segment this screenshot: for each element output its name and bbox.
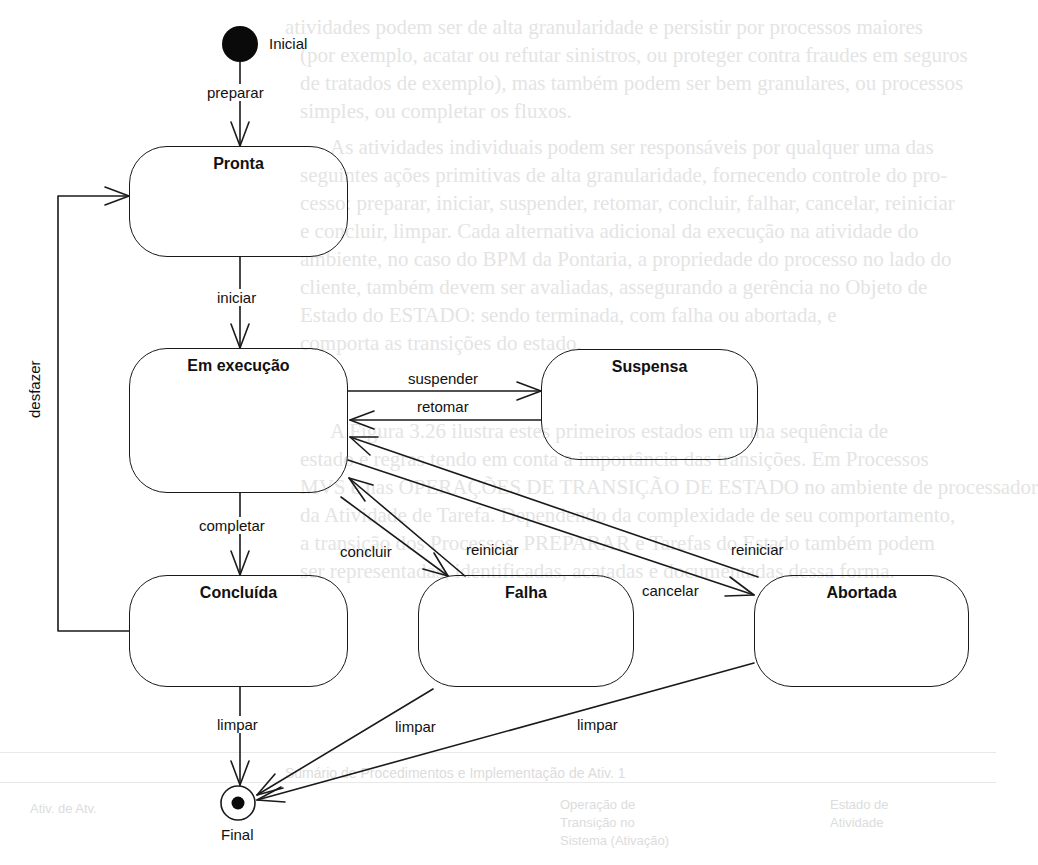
transition-label-reiniciar-abortada: reiniciar [729, 541, 786, 558]
state-name: Em execução [130, 357, 347, 375]
state-name: Concluída [130, 584, 347, 602]
state-falha: Falha [418, 575, 634, 687]
state-name: Suspensa [542, 358, 757, 376]
transition-label-reiniciar-falha: reiniciar [464, 541, 521, 558]
initial-node-icon [222, 26, 258, 62]
state-concluida: Concluída [129, 575, 348, 687]
state-pronta: Pronta [129, 146, 348, 257]
transition-limpar-concluida [231, 687, 249, 785]
transition-label-completar: completar [197, 517, 267, 534]
state-suspensa: Suspensa [541, 349, 758, 460]
transition-limpar-falha [257, 689, 433, 795]
transition-label-desfazer: desfazer [26, 358, 43, 420]
state-name: Abortada [755, 584, 968, 602]
transition-label-retomar: retomar [415, 398, 471, 415]
transition-label-suspender: suspender [406, 370, 480, 387]
state-em-execucao: Em execução [129, 348, 348, 493]
transition-label-concluir: concluir [338, 543, 394, 560]
state-name: Falha [419, 584, 633, 602]
transition-label-limpar-falha: limpar [393, 718, 438, 735]
final-label: Final [219, 826, 256, 843]
transition-concluir [341, 497, 448, 576]
transition-label-preparar: preparar [205, 84, 266, 101]
transition-label-limpar-concluida: limpar [215, 716, 260, 733]
transition-label-cancelar: cancelar [640, 582, 701, 599]
transition-preparar [231, 62, 249, 146]
transition-desfazer [58, 187, 129, 631]
state-abortada: Abortada [754, 575, 969, 687]
transition-label-iniciar: iniciar [215, 289, 258, 306]
transition-completar [231, 493, 249, 575]
initial-label: Inicial [267, 35, 309, 52]
state-name: Pronta [130, 155, 347, 173]
transition-label-limpar-abortada: limpar [575, 716, 620, 733]
final-node-core-icon [232, 797, 245, 810]
